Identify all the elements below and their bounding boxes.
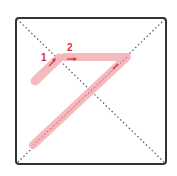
stroke-1-label: 1 [41,52,47,63]
stroke-order-diagram: 1 2 [0,0,177,176]
diagram-canvas: 1 2 [0,0,177,176]
stroke-2-label: 2 [67,42,73,53]
